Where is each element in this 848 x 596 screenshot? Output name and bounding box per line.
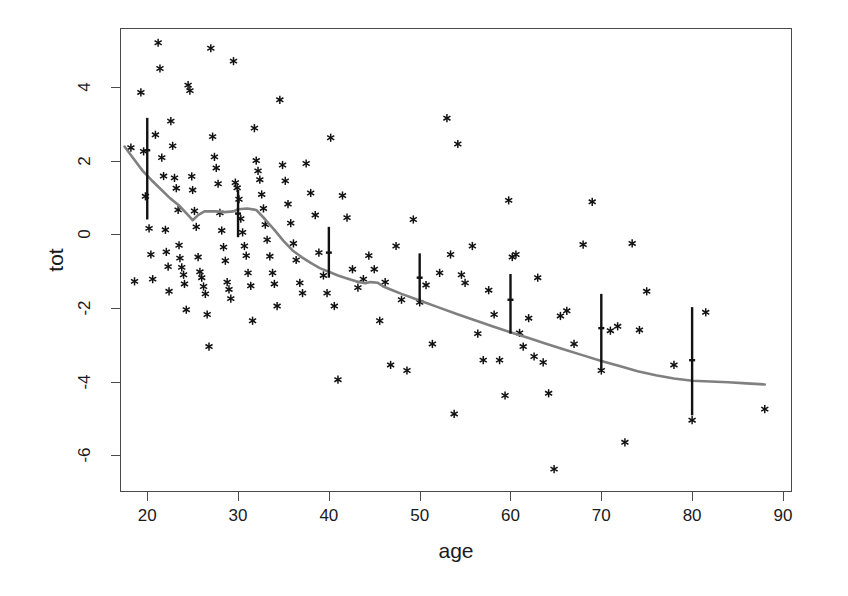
data-point xyxy=(171,174,178,182)
data-point xyxy=(643,287,650,295)
data-point xyxy=(191,207,198,215)
data-point xyxy=(545,389,552,397)
data-point xyxy=(636,326,643,334)
data-point xyxy=(339,191,346,199)
x-tick-label: 30 xyxy=(226,506,250,526)
y-axis-title: tot xyxy=(43,220,69,300)
y-tick-label: -4 xyxy=(75,365,95,399)
data-point xyxy=(220,243,227,251)
x-tick-mark xyxy=(601,492,602,501)
data-point xyxy=(254,167,261,175)
data-point xyxy=(458,271,465,279)
y-tick-label: -6 xyxy=(75,438,95,472)
data-point xyxy=(480,356,487,364)
data-point xyxy=(180,271,187,279)
data-point xyxy=(327,134,334,142)
data-point xyxy=(365,251,372,259)
x-tick-label: 70 xyxy=(589,506,613,526)
y-tick-mark xyxy=(111,455,120,456)
data-point xyxy=(410,215,417,223)
data-point xyxy=(251,124,258,132)
data-point xyxy=(454,140,461,148)
data-point xyxy=(447,250,454,258)
x-tick-label: 50 xyxy=(408,506,432,526)
data-point xyxy=(525,314,532,322)
data-point xyxy=(282,177,289,185)
data-point xyxy=(205,342,212,350)
data-point xyxy=(614,322,621,330)
data-point xyxy=(563,307,570,315)
data-point xyxy=(165,287,172,295)
data-point xyxy=(443,114,450,122)
data-point xyxy=(155,39,162,47)
data-point xyxy=(167,117,174,125)
y-tick-mark xyxy=(111,161,120,162)
data-point xyxy=(469,242,476,250)
data-point xyxy=(320,271,327,279)
x-tick-label: 80 xyxy=(680,506,704,526)
data-point xyxy=(264,236,271,244)
data-point xyxy=(230,57,237,65)
data-point xyxy=(571,340,578,348)
data-point xyxy=(239,228,246,236)
y-tick-label: 2 xyxy=(75,144,95,178)
data-point xyxy=(331,302,338,310)
data-point xyxy=(540,358,547,366)
data-point xyxy=(227,295,234,303)
x-tick-label: 60 xyxy=(498,506,522,526)
y-tick-label: -2 xyxy=(75,291,95,325)
data-point xyxy=(349,265,356,273)
data-point xyxy=(491,310,498,318)
data-point xyxy=(183,306,190,314)
data-point xyxy=(244,269,251,277)
data-point xyxy=(589,198,596,206)
data-point xyxy=(189,186,196,194)
data-points-group xyxy=(127,39,768,474)
data-point xyxy=(158,154,165,162)
data-point xyxy=(181,280,188,288)
data-point xyxy=(162,226,169,234)
data-point xyxy=(160,172,167,180)
x-axis-title: age xyxy=(416,539,496,563)
data-point xyxy=(761,405,768,413)
data-point xyxy=(436,269,443,277)
data-point xyxy=(188,172,195,180)
x-tick-label: 90 xyxy=(771,506,795,526)
y-tick-mark xyxy=(111,382,120,383)
data-point xyxy=(152,131,159,139)
data-point xyxy=(293,256,300,264)
data-point xyxy=(376,317,383,325)
data-point xyxy=(474,330,481,338)
data-point xyxy=(169,142,176,150)
x-tick-mark xyxy=(329,492,330,501)
data-point xyxy=(175,241,182,249)
data-point xyxy=(551,465,558,473)
data-point xyxy=(218,226,225,234)
error-bars-group xyxy=(144,118,695,416)
data-point xyxy=(557,312,564,320)
data-point xyxy=(215,180,222,188)
data-point xyxy=(225,285,232,293)
data-point xyxy=(279,161,286,169)
data-point xyxy=(178,263,185,271)
data-point xyxy=(213,164,220,172)
data-point xyxy=(156,64,163,72)
data-point xyxy=(580,240,587,248)
data-point xyxy=(534,274,541,282)
data-point xyxy=(371,265,378,273)
data-point xyxy=(249,317,256,325)
data-point xyxy=(137,88,144,96)
data-point xyxy=(173,184,180,192)
data-point xyxy=(131,277,138,285)
x-tick-mark xyxy=(783,492,784,501)
data-point xyxy=(702,308,709,316)
data-point xyxy=(354,284,361,292)
data-point xyxy=(429,340,436,348)
data-point xyxy=(271,280,278,288)
data-point xyxy=(485,286,492,294)
data-point xyxy=(303,159,310,167)
data-point xyxy=(505,196,512,204)
chart-root: 2030405060708090 -6-4-2024 age tot xyxy=(0,0,848,596)
data-point xyxy=(146,224,153,232)
data-point xyxy=(284,200,291,208)
